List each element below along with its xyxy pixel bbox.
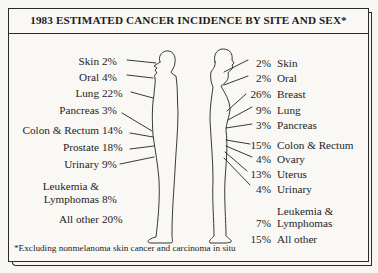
- male-site-oral: Oral: [0, 71, 99, 83]
- female-pct-urinary: 4%: [233, 183, 271, 195]
- female-pct-ovary: 4%: [233, 153, 271, 165]
- female-pct-leukemia: 7%: [233, 217, 271, 229]
- female-site-colon-rectum: Colon & Rectum: [277, 139, 353, 151]
- male-site-colon-rectum: Colon & Rectum: [0, 124, 99, 136]
- female-site-lung: Lung: [277, 104, 301, 116]
- male-pct-pancreas: 3%: [102, 104, 117, 116]
- female-pct-oral: 2%: [233, 72, 271, 84]
- body-silhouettes: [0, 0, 378, 273]
- male-pct-oral: 4%: [102, 71, 117, 83]
- female-pct-breast: 26%: [233, 88, 271, 100]
- male-site-leukemia-line1: Leukemia &: [0, 180, 99, 192]
- male-site-urinary: Urinary: [0, 158, 99, 170]
- female-site-oral: Oral: [277, 72, 297, 84]
- female-site-urinary: Urinary: [277, 183, 312, 195]
- male-site-lung: Lung: [0, 87, 99, 99]
- male-site-leukemia-line2: Lymphomas: [0, 193, 99, 205]
- female-site-leukemia-line2: Lymphomas: [277, 217, 332, 229]
- female-pct-all-other: 15%: [233, 233, 271, 245]
- female-site-skin: Skin: [277, 57, 298, 69]
- male-site-pancreas: Pancreas: [0, 104, 99, 116]
- female-pct-skin: 2%: [233, 57, 271, 69]
- female-site-all-other: All other: [277, 233, 317, 245]
- male-pct-leukemia: 8%: [102, 193, 117, 205]
- male-site-prostate: Prostate: [0, 141, 99, 153]
- female-site-leukemia-line1: Leukemia &: [277, 205, 333, 217]
- male-site-skin: Skin: [0, 55, 99, 67]
- female-site-breast: Breast: [277, 88, 306, 100]
- female-pct-uterus: 13%: [233, 168, 271, 180]
- female-site-ovary: Ovary: [277, 153, 305, 165]
- female-pct-lung: 9%: [233, 104, 271, 116]
- male-pct-skin: 2%: [102, 55, 117, 67]
- male-pct-colon-rectum: 14%: [102, 124, 123, 136]
- male-silhouette: [148, 51, 178, 243]
- female-site-uterus: Uterus: [277, 168, 307, 180]
- female-silhouette: [209, 49, 234, 243]
- male-pct-urinary: 9%: [102, 158, 117, 170]
- female-pct-pancreas: 3%: [233, 119, 271, 131]
- male-site-all-other: All other: [0, 213, 99, 225]
- male-pct-lung: 22%: [102, 87, 123, 99]
- male-pct-all-other: 20%: [102, 213, 123, 225]
- footnote: *Excluding nonmelanoma skin cancer and c…: [14, 243, 236, 254]
- female-site-pancreas: Pancreas: [277, 119, 317, 131]
- male-pct-prostate: 18%: [102, 141, 123, 153]
- female-pct-colon-rectum: 15%: [233, 139, 271, 151]
